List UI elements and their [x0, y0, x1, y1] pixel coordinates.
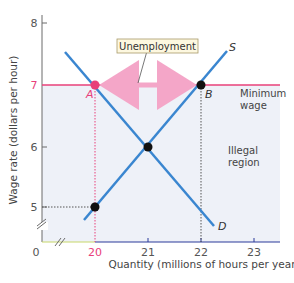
illegal-region-label-2: region — [228, 157, 260, 168]
label-d: D — [218, 220, 226, 233]
minimum-wage-chart: 8 7 6 5 0 20 21 22 23 Wage rate (dollars… — [0, 0, 294, 283]
illegal-region-label-1: Illegal — [228, 145, 258, 156]
point-wage-5 — [91, 203, 100, 212]
label-b: B — [205, 88, 213, 101]
point-equilibrium — [144, 143, 153, 152]
y-axis-title: Wage rate (dollars per hour) — [7, 56, 19, 205]
y-tick-8: 8 — [31, 17, 38, 30]
x-tick-20: 20 — [88, 246, 102, 259]
y-tick-5: 5 — [31, 201, 38, 214]
minimum-wage-label-2: wage — [240, 100, 267, 111]
unemployment-label: Unemployment — [119, 41, 196, 52]
x-tick-0: 0 — [33, 246, 40, 259]
x-axis-title: Quantity (millions of hours per year) — [108, 258, 294, 270]
y-tick-7: 7 — [31, 79, 38, 92]
label-a: A — [85, 88, 94, 101]
y-tick-6: 6 — [31, 141, 38, 154]
label-s: S — [229, 41, 236, 54]
minimum-wage-label-1: Minimum — [240, 88, 286, 99]
chart-svg: 8 7 6 5 0 20 21 22 23 Wage rate (dollars… — [0, 0, 294, 283]
unemployment-leader — [138, 51, 147, 83]
